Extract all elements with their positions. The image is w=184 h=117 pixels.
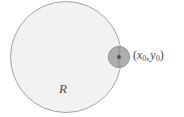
figure-canvas: R (x0,y0) bbox=[0, 0, 184, 117]
boundary-point-dot bbox=[117, 55, 121, 59]
boundary-point-label: (x0,y0) bbox=[133, 49, 164, 63]
region-label: R bbox=[59, 82, 67, 95]
point-label-close-paren: ) bbox=[160, 48, 164, 62]
